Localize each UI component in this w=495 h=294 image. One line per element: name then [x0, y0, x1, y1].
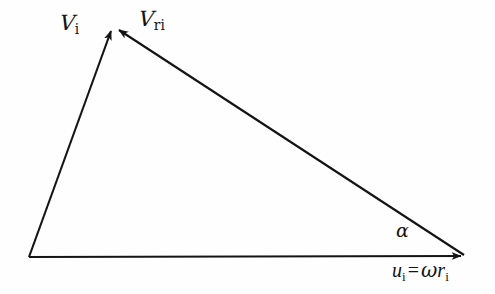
script-v-glyph: V [138, 9, 154, 30]
label-absolute-velocity-subscript: i [75, 21, 80, 37]
vector-line-relative-velocity [119, 30, 464, 255]
equals-operator: = [406, 259, 421, 281]
radius-subscript: i [445, 269, 449, 284]
vector-diagram [0, 0, 495, 294]
label-blade-speed-equation: ui=ωri [392, 260, 449, 283]
label-relative-velocity-subscript: ri [154, 17, 165, 33]
script-v-glyph: V [59, 13, 75, 34]
vector-line-blade-speed [29, 256, 461, 257]
label-absolute-velocity: Vi [60, 13, 79, 37]
vector-line-absolute-velocity [29, 31, 111, 257]
omega-symbol: ω [421, 258, 437, 282]
radius-symbol: r [437, 259, 445, 281]
blade-speed-symbol: u [392, 259, 402, 281]
velocity-triangle-figure: Vi Vri α ui=ωri [0, 0, 495, 294]
label-relative-velocity: Vri [139, 9, 165, 33]
label-angle-alpha: α [396, 221, 409, 240]
